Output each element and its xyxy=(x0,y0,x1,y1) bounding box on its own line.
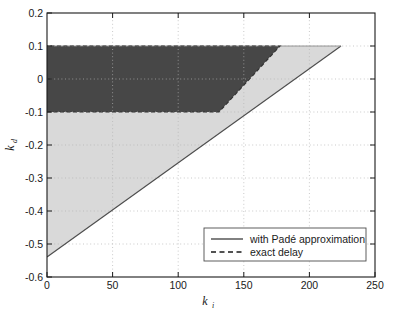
chart-canvas: 0.2 0.1 0 -0.1 -0.2 -0.3 -0.4 -0.5 -0.6 … xyxy=(0,0,398,314)
y-axis-title: k d xyxy=(3,138,19,151)
x-tick-label-50: 50 xyxy=(107,279,119,291)
y-tick-label--0.6: -0.6 xyxy=(25,271,43,283)
y-tick-label-0: 0 xyxy=(37,73,43,85)
y-tick-label-0.1: 0.1 xyxy=(28,40,43,52)
x-axis-title-base: k xyxy=(202,294,208,308)
x-axis-title: k i xyxy=(202,294,214,310)
y-tick-labels: 0.2 0.1 0 -0.1 -0.2 -0.3 -0.4 -0.5 -0.6 xyxy=(25,7,43,283)
y-axis-title-sub: d xyxy=(10,138,19,143)
y-axis-title-base: k xyxy=(3,145,17,151)
legend-label-exact-delay: exact delay xyxy=(250,246,304,258)
x-tick-label-0: 0 xyxy=(44,279,50,291)
x-tick-label-100: 100 xyxy=(169,279,187,291)
legend-label-pade: with Padé approximation xyxy=(249,233,365,245)
figure-container: 0.2 0.1 0 -0.1 -0.2 -0.3 -0.4 -0.5 -0.6 … xyxy=(0,0,398,314)
x-tick-label-250: 250 xyxy=(366,279,384,291)
x-tick-label-150: 150 xyxy=(235,279,253,291)
y-tick-label--0.1: -0.1 xyxy=(25,106,43,118)
y-tick-label--0.5: -0.5 xyxy=(25,238,43,250)
y-tick-label--0.2: -0.2 xyxy=(25,139,43,151)
y-tick-label--0.4: -0.4 xyxy=(25,205,43,217)
x-axis-title-sub: i xyxy=(212,301,214,310)
x-tick-label-200: 200 xyxy=(301,279,319,291)
y-tick-label--0.3: -0.3 xyxy=(25,172,43,184)
y-tick-label-0.2: 0.2 xyxy=(28,7,43,19)
legend[interactable]: with Padé approximation exact delay xyxy=(204,228,366,261)
x-tick-labels: 0 50 100 150 200 250 xyxy=(44,279,384,291)
